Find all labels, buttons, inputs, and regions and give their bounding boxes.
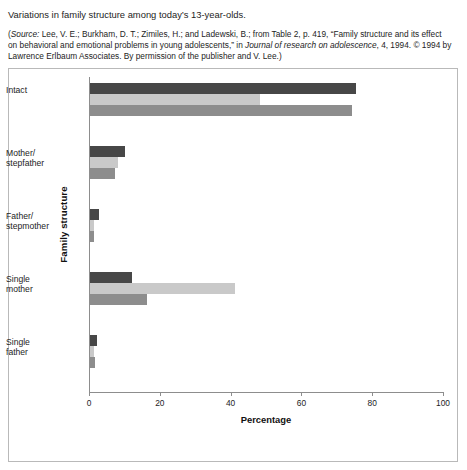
category-label: Father/ stepmother	[6, 211, 80, 232]
bar	[90, 220, 94, 231]
bar-group: Intact	[90, 83, 443, 119]
bar-group: Single father	[90, 335, 443, 371]
bar	[90, 283, 235, 294]
category-label: Mother/ stepfather	[6, 148, 80, 169]
category-label: Intact	[6, 85, 80, 95]
bar	[90, 105, 352, 116]
x-axis-tick-label: 80	[352, 398, 392, 408]
bar-group: Single mother	[90, 272, 443, 308]
bar	[90, 146, 125, 157]
category-label: Single mother	[6, 274, 80, 295]
x-axis-tick	[89, 392, 90, 396]
x-axis-tick-label: 40	[211, 398, 251, 408]
bar	[90, 231, 94, 242]
bar-group: Father/ stepmother	[90, 209, 443, 245]
x-axis-tick	[160, 392, 161, 396]
figure-source-note: (Source: Lee, V. E.; Burkham, D. T.; Zim…	[8, 29, 452, 63]
x-axis-tick-label: 60	[281, 398, 321, 408]
bar	[90, 294, 147, 305]
x-axis: 020406080100	[89, 392, 443, 393]
bar	[90, 346, 94, 357]
x-axis-tick	[301, 392, 302, 396]
chart-frame: Family structure IntactMother/ stepfathe…	[8, 68, 458, 462]
figure-caption-title: Variations in family structure among tod…	[8, 8, 452, 21]
x-axis-tick	[372, 392, 373, 396]
bar	[90, 209, 99, 220]
x-axis-tick-label: 0	[69, 398, 109, 408]
x-axis-tick	[443, 392, 444, 396]
caption-block: Variations in family structure among tod…	[8, 8, 452, 63]
bar	[90, 335, 97, 346]
bar	[90, 83, 356, 94]
x-axis-tick	[231, 392, 232, 396]
source-journal-name: Journal of research on adolescence	[245, 40, 376, 50]
bar	[90, 272, 132, 283]
bar	[90, 168, 115, 179]
bar-group: Mother/ stepfather	[90, 146, 443, 182]
bar	[90, 357, 95, 368]
x-axis-title: Percentage	[89, 414, 443, 425]
plot-area: IntactMother/ stepfatherFather/ stepmoth…	[89, 77, 443, 392]
x-axis-tick-label: 100	[423, 398, 463, 408]
figure-page: Variations in family structure among tod…	[0, 0, 467, 470]
source-label: Source:	[11, 29, 40, 39]
bar	[90, 94, 260, 105]
category-label: Single father	[6, 337, 80, 358]
x-axis-tick-label: 20	[140, 398, 180, 408]
bar	[90, 157, 118, 168]
